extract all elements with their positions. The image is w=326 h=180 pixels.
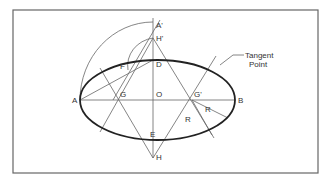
label-g: G <box>120 90 126 99</box>
label-g-prime: G' <box>194 90 202 99</box>
ellipse-construction-diagram: A B O D E A' H' H G G' F R R Tangent Poi… <box>0 0 326 180</box>
callout-line-1: Tangent <box>245 51 274 60</box>
label-r-2: R <box>185 115 191 124</box>
frame <box>13 10 318 173</box>
label-d: D <box>156 60 162 69</box>
label-a: A <box>72 96 78 105</box>
callout-line-2: Point <box>249 60 268 69</box>
label-e: E <box>150 130 155 139</box>
label-r-1: R <box>205 105 211 114</box>
label-h: H <box>156 153 162 162</box>
label-o: O <box>156 90 162 99</box>
label-f: F <box>120 62 125 71</box>
label-a-prime: A' <box>156 21 163 30</box>
label-h-prime: H' <box>156 34 164 43</box>
label-b: B <box>238 96 243 105</box>
